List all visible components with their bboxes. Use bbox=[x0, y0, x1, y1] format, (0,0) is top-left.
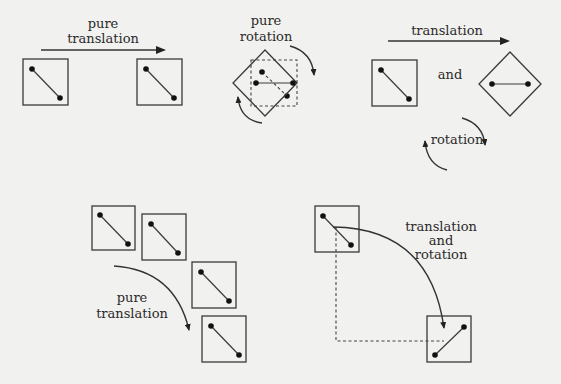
label-translation: translation bbox=[411, 23, 483, 38]
label-pure: pure bbox=[117, 290, 148, 305]
label-and: and bbox=[438, 67, 462, 82]
panel-translation-and-rotation-path: translation and rotation bbox=[315, 206, 477, 362]
label-translation: translation bbox=[67, 31, 139, 46]
label-and: and bbox=[429, 233, 453, 248]
panel-pure-rotation: pure rotation bbox=[233, 13, 314, 123]
panel-pure-translation-curved: pure translation bbox=[92, 206, 246, 362]
label-rotation: rotation bbox=[240, 29, 293, 44]
panel-translation-and-rotation: translation and rotation bbox=[372, 23, 541, 170]
label-translation: translation bbox=[405, 219, 477, 234]
label-pure: pure bbox=[88, 16, 119, 31]
panel-pure-translation-horizontal: pure translation bbox=[23, 16, 182, 105]
rotation-arrow-cw-top bbox=[290, 46, 314, 75]
label-rotation: rotation bbox=[431, 132, 484, 147]
curved-path-arrow bbox=[333, 227, 444, 328]
label-rotation: rotation bbox=[415, 247, 468, 262]
label-translation: translation bbox=[96, 306, 168, 321]
label-pure: pure bbox=[251, 13, 282, 28]
motion-diagram: pure translation pure rotation translati… bbox=[0, 0, 561, 384]
